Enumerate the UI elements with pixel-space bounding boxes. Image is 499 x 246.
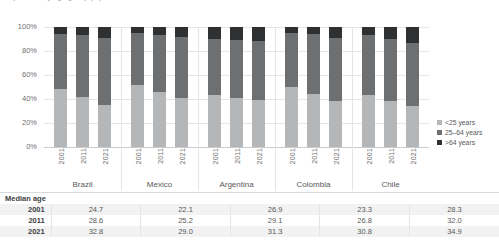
bar-segment-25-years [230, 98, 243, 147]
bar-segment-64-years [307, 27, 320, 34]
x-tick-label-mexico-2011: 2011 [153, 148, 166, 176]
x-tick-label-colombia-2021: 2021 [329, 148, 342, 176]
figure-container: Population by age group (%) 100%80%60%40… [0, 0, 499, 246]
country-label-mexico: Mexico [121, 178, 198, 191]
median-age-value-argentina-2001: 26.9 [230, 204, 320, 215]
bar-segment-25-years [76, 97, 89, 147]
year-tick-group-colombia: 200120112021 [275, 148, 352, 176]
legend-item[interactable]: >64 years [437, 138, 499, 147]
bar-segment-25-64-years [175, 37, 188, 98]
median-age-value-chile-2011: 32.0 [409, 215, 499, 226]
bar-segment-25-years [285, 87, 298, 147]
median-age-value-brazil-2001: 24.7 [51, 204, 141, 215]
bar-segment-64-years [252, 27, 265, 41]
bar-segment-25-64-years [76, 35, 89, 96]
median-age-table: Median age200124.722.126.923.328.3201128… [0, 192, 499, 237]
stacked-bar-argentina-2021[interactable] [252, 27, 265, 147]
legend-swatch-over64 [437, 140, 442, 145]
median-age-value-colombia-2011: 26.8 [320, 215, 410, 226]
bar-segment-25-64-years [98, 38, 111, 105]
bar-segment-25-years [208, 95, 221, 147]
bar-segment-25-64-years [208, 39, 221, 95]
bar-segment-25-64-years [54, 34, 67, 89]
bar-group-mexico [121, 27, 198, 147]
bar-segment-25-years [153, 92, 166, 147]
country-label-chile: Chile [352, 178, 429, 191]
bar-segment-25-years [384, 101, 397, 147]
median-age-header-row: Median age [0, 193, 499, 205]
median-age-row-year: 2021 [0, 226, 51, 237]
bar-segment-25-64-years [285, 33, 298, 87]
stacked-bar-chile-2001[interactable] [362, 27, 375, 147]
bar-segment-25-64-years [329, 38, 342, 102]
legend-item[interactable]: 25–64 years [437, 128, 499, 137]
x-tick-label-brazil-2021: 2021 [98, 148, 111, 176]
bar-segment-64-years [362, 27, 375, 35]
x-tick-label-chile-2021: 2021 [406, 148, 419, 176]
stacked-bar-brazil-2011[interactable] [76, 27, 89, 147]
bar-segment-64-years [98, 27, 111, 38]
bar-segment-25-years [175, 98, 188, 147]
bar-group-brazil [44, 27, 121, 147]
bar-segment-64-years [208, 27, 221, 39]
bar-segment-25-years [54, 89, 67, 147]
stacked-bar-colombia-2001[interactable] [285, 27, 298, 147]
median-age-value-mexico-2001: 22.1 [141, 204, 231, 215]
stacked-bar-mexico-2001[interactable] [131, 27, 144, 147]
y-axis-tick-label: 100% [18, 23, 37, 31]
x-tick-label-colombia-2001: 2001 [285, 148, 298, 176]
table-row: 200124.722.126.923.328.3 [0, 204, 499, 215]
median-age-value-colombia-2001: 23.3 [320, 204, 410, 215]
x-tick-label-argentina-2021: 2021 [252, 148, 265, 176]
table-row: 201128.625.229.126.832.0 [0, 215, 499, 226]
year-tick-group-brazil: 200120112021 [44, 148, 121, 176]
stacked-bar-brazil-2001[interactable] [54, 27, 67, 147]
y-axis-tick-label: 60% [22, 71, 37, 79]
country-label-colombia: Colombia [275, 178, 352, 191]
bar-segment-64-years [175, 27, 188, 37]
x-axis-country-labels: BrazilMexicoArgentinaColombiaChile [44, 178, 429, 191]
median-age-table-element: Median age200124.722.126.923.328.3201128… [0, 192, 499, 237]
median-age-row-year: 2001 [0, 204, 51, 215]
bar-segment-64-years [153, 27, 166, 35]
bar-segment-25-years [329, 101, 342, 147]
median-age-value-mexico-2011: 25.2 [141, 215, 231, 226]
bar-segment-64-years [406, 27, 419, 43]
legend-item[interactable]: <25 years [437, 118, 499, 127]
stacked-bar-colombia-2021[interactable] [329, 27, 342, 147]
bar-segment-25-64-years [153, 35, 166, 91]
y-axis: 100%80%60%40%20%0% [0, 27, 40, 147]
x-tick-label-chile-2011: 2011 [384, 148, 397, 176]
x-tick-label-brazil-2001: 2001 [54, 148, 67, 176]
year-tick-group-argentina: 200120112021 [198, 148, 275, 176]
x-tick-label-argentina-2001: 2001 [208, 148, 221, 176]
x-tick-label-mexico-2021: 2021 [175, 148, 188, 176]
median-age-value-argentina-2021: 31.3 [230, 226, 320, 237]
y-axis-tick-label: 0% [26, 143, 37, 151]
bar-segment-25-64-years [252, 41, 265, 100]
y-axis-tick-label: 20% [22, 119, 37, 127]
bar-group-argentina [198, 27, 275, 147]
y-axis-tick-label: 40% [22, 95, 37, 103]
median-age-value-argentina-2011: 29.1 [230, 215, 320, 226]
stacked-bar-argentina-2001[interactable] [208, 27, 221, 147]
country-label-brazil: Brazil [44, 178, 121, 191]
year-tick-group-chile: 200120112021 [352, 148, 429, 176]
stacked-bar-mexico-2021[interactable] [175, 27, 188, 147]
bar-segment-64-years [54, 27, 67, 34]
bar-segment-25-64-years [406, 43, 419, 107]
stacked-bar-argentina-2011[interactable] [230, 27, 243, 147]
stacked-bar-mexico-2011[interactable] [153, 27, 166, 147]
stacked-bar-chile-2011[interactable] [384, 27, 397, 147]
stacked-bar-colombia-2011[interactable] [307, 27, 320, 147]
bar-segment-64-years [76, 27, 89, 35]
bar-group-chile [352, 27, 429, 147]
bar-segment-25-years [252, 100, 265, 147]
country-label-argentina: Argentina [198, 178, 275, 191]
stacked-bar-chile-2021[interactable] [406, 27, 419, 147]
bar-segment-25-years [406, 106, 419, 147]
bar-segment-25-64-years [230, 40, 243, 98]
stacked-bar-brazil-2021[interactable] [98, 27, 111, 147]
legend-label: 25–64 years [445, 128, 482, 137]
x-tick-label-mexico-2001: 2001 [131, 148, 144, 176]
